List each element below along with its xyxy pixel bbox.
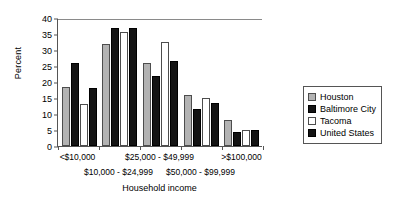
bar [211, 103, 219, 146]
x-tick-mark [222, 146, 223, 150]
legend-swatch-icon [308, 93, 316, 101]
bar-chart-figure: Percent 0510152025303540 <$10,000$10,000… [0, 0, 399, 203]
x-category-label: <$10,000 [60, 152, 96, 162]
x-category-label: $25,000 - $49,999 [125, 152, 194, 162]
bar [242, 130, 250, 146]
bar-group [184, 19, 219, 146]
bar [120, 32, 128, 146]
y-tick-label: 20 [42, 78, 58, 88]
x-tick-mark [140, 146, 141, 150]
legend-item-label: Baltimore City [320, 104, 376, 114]
x-tick-mark [58, 146, 59, 150]
legend-item-label: Tacoma [320, 116, 352, 126]
y-tick-label: 35 [42, 30, 58, 40]
bar [129, 28, 137, 146]
bar-group [62, 19, 97, 146]
bar [62, 87, 70, 146]
bar [161, 42, 169, 146]
bar [111, 28, 119, 146]
y-tick-label: 5 [47, 126, 58, 136]
bar [193, 109, 201, 146]
legend-swatch-icon [308, 117, 316, 125]
bar-group [102, 19, 137, 146]
bar [202, 98, 210, 146]
bar [80, 104, 88, 146]
bar [102, 44, 110, 146]
y-tick-label: 25 [42, 62, 58, 72]
y-tick-label: 0 [47, 142, 58, 152]
bar-groups [59, 19, 262, 146]
bar [143, 63, 151, 146]
legend-item[interactable]: Tacoma [308, 115, 376, 127]
legend-item[interactable]: Houston [308, 91, 376, 103]
x-tick-mark [263, 146, 264, 150]
bar [224, 120, 232, 146]
y-axis-title: Percent [13, 23, 23, 103]
y-tick-label: 40 [42, 14, 58, 24]
y-tick-label: 10 [42, 110, 58, 120]
bar [233, 132, 241, 146]
legend-item[interactable]: Baltimore City [308, 103, 376, 115]
bar-group [224, 19, 259, 146]
legend-swatch-icon [308, 129, 316, 137]
bar [71, 63, 79, 146]
bar [152, 76, 160, 146]
chart-legend: HoustonBaltimore CityTacomaUnited States [303, 86, 382, 144]
x-tick-mark [99, 146, 100, 150]
bar-group [143, 19, 178, 146]
legend-swatch-icon [308, 105, 316, 113]
bar [89, 88, 97, 146]
plot-area: 0510152025303540 [57, 19, 262, 147]
x-tick-mark [181, 146, 182, 150]
legend-item[interactable]: United States [308, 127, 376, 139]
y-tick-label: 15 [42, 94, 58, 104]
bar [251, 130, 259, 146]
bar [184, 95, 192, 146]
x-category-label: $10,000 - $24,999 [84, 167, 153, 177]
y-tick-label: 30 [42, 46, 58, 56]
legend-item-label: United States [320, 128, 374, 138]
x-axis-title: Household income [57, 183, 262, 193]
bar [170, 61, 178, 146]
legend-item-label: Houston [320, 92, 354, 102]
x-category-label: >$100,000 [221, 152, 261, 162]
x-category-label: $50,000 - $99,999 [166, 167, 235, 177]
